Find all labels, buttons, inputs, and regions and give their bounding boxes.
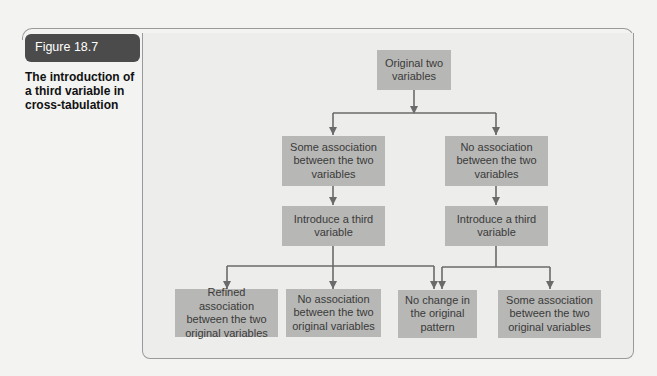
node-some-association-original: Some association between the two origina…	[498, 290, 601, 338]
node-no-association: No association between the two variables	[445, 136, 548, 186]
node-no-association-original: No association between the two original …	[286, 289, 381, 337]
node-introduce-third-variable-right: Introduce a third variable	[445, 206, 548, 246]
node-original-two-variables: Original two variables	[377, 50, 451, 90]
node-refined-association: Refined association between the two orig…	[175, 289, 278, 337]
node-no-change: No change in the original pattern	[398, 290, 477, 338]
node-some-association: Some association between the two variabl…	[282, 136, 385, 186]
node-introduce-third-variable-left: Introduce a third variable	[282, 206, 385, 246]
